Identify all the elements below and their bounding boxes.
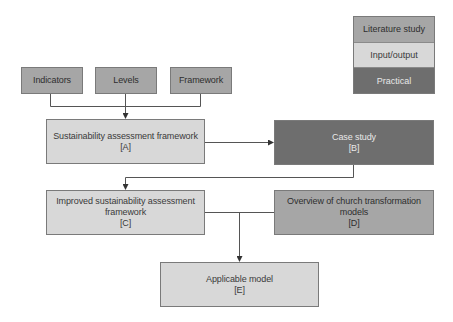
legend-label: Literature study	[363, 24, 425, 34]
node-d-tag: [D]	[348, 218, 359, 229]
indicators-box: Indicators	[21, 67, 83, 94]
levels-label: Levels	[113, 75, 138, 86]
node-c-title-line2: framework	[105, 207, 146, 218]
inputs-join-line	[51, 93, 201, 107]
framework-label: Framework	[179, 75, 223, 86]
legend-item-practical: Practical	[354, 68, 434, 93]
node-d-church-transformation-models: Overview of church transformation models…	[274, 190, 434, 235]
node-c-improved-framework: Improved sustainability assessment frame…	[46, 190, 205, 235]
indicators-label: Indicators	[33, 75, 71, 86]
node-c-tag: [C]	[120, 218, 131, 229]
legend-label: Practical	[377, 76, 412, 86]
node-a-sustainability-assessment-framework: Sustainability assessment framework [A]	[46, 119, 205, 164]
node-b-case-study: Case study [B]	[274, 120, 434, 165]
legend-item-input-output: Input/output	[354, 43, 434, 69]
legend-label: Input/output	[370, 50, 418, 60]
node-c-title-line1: Improved sustainability assessment	[56, 196, 195, 207]
node-b-tag: [B]	[349, 143, 360, 154]
legend-item-literature-study: Literature study	[354, 17, 434, 43]
node-b-title: Case study	[332, 132, 376, 143]
legend: Literature study Input/output Practical	[353, 16, 435, 94]
node-e-title: Applicable model	[206, 274, 273, 285]
node-e-tag: [E]	[234, 285, 245, 296]
framework-box: Framework	[170, 67, 232, 94]
node-a-title: Sustainability assessment framework	[53, 131, 198, 142]
node-d-title-line1: Overview of church transformation	[287, 196, 421, 207]
arrow-b-to-c	[126, 164, 354, 189]
node-a-tag: [A]	[120, 142, 131, 153]
node-e-applicable-model: Applicable model [E]	[160, 262, 319, 307]
levels-box: Levels	[95, 67, 157, 94]
node-d-title-line2: models	[340, 207, 368, 218]
